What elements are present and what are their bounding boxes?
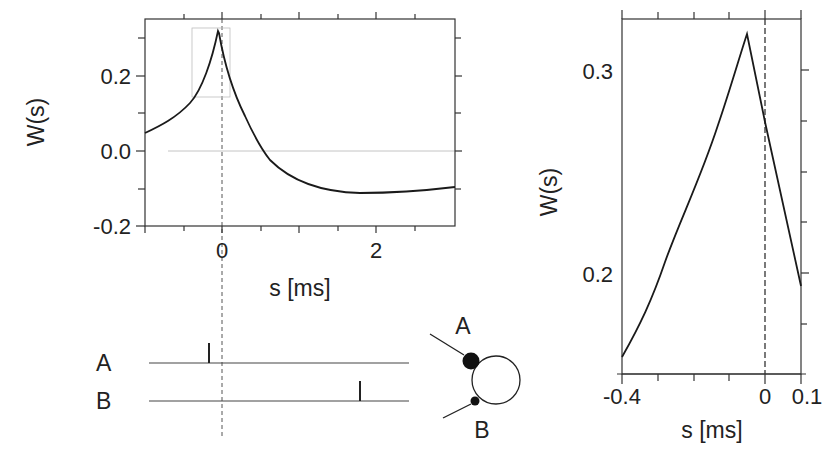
synapse-b-icon — [471, 397, 480, 406]
left-y-ticks — [136, 38, 462, 226]
right-xtick--0.4: -0.4 — [603, 384, 641, 409]
spike-trains: A B — [96, 343, 409, 414]
left-ytick--0.2: -0.2 — [93, 214, 131, 239]
right-x-ticks — [617, 10, 806, 384]
left-x-axis-label: s [ms] — [269, 275, 330, 301]
right-xtick-0.1: 0.1 — [792, 384, 823, 409]
left-xtick-2: 2 — [370, 238, 382, 263]
left-chart: 0.2 0.0 -0.2 0 2 s [ms] W(s) — [23, 12, 462, 437]
zoom-inset-box — [192, 28, 230, 97]
synapse-label-b: B — [474, 417, 489, 443]
right-xtick-0: 0 — [759, 384, 771, 409]
left-w-curve — [145, 31, 455, 193]
right-plot-frame — [622, 19, 801, 374]
left-y-axis-label: W(s) — [23, 98, 49, 147]
right-y-ticks — [801, 70, 809, 324]
train-label-b: B — [96, 388, 111, 414]
figure: 0.2 0.0 -0.2 0 2 s [ms] W(s) A B A B — [0, 0, 831, 468]
right-ytick-0.2: 0.2 — [582, 262, 613, 287]
left-plot-frame — [145, 19, 455, 226]
neuron-diagram: A B — [430, 313, 520, 443]
left-ytick-0.0: 0.0 — [100, 139, 131, 164]
right-ytick-0.3: 0.3 — [582, 59, 613, 84]
synapse-a-icon — [463, 353, 480, 370]
left-x-ticks — [145, 12, 415, 233]
left-xtick-0: 0 — [216, 238, 228, 263]
right-chart: 0.3 0.2 -0.4 0 0.1 s [ms] W(s) — [536, 10, 822, 443]
synapse-label-a: A — [455, 313, 471, 339]
right-w-curve-zoom — [622, 34, 801, 357]
right-y-axis-label: W(s) — [536, 168, 562, 217]
axon-b — [443, 404, 471, 418]
left-ytick-0.2: 0.2 — [100, 64, 131, 89]
train-label-a: A — [96, 350, 112, 376]
right-x-axis-label: s [ms] — [681, 417, 742, 443]
